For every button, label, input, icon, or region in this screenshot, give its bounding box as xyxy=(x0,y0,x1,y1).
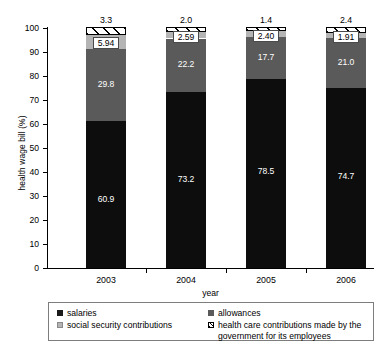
y-tick-label: 40 xyxy=(13,168,39,177)
y-tick-label: 0 xyxy=(13,264,39,273)
x-tick-label-2003: 2003 xyxy=(76,275,136,285)
legend: salaries social security contributions a… xyxy=(48,302,374,341)
y-tick-label: 60 xyxy=(13,120,39,129)
legend-label-salaries: salaries xyxy=(67,308,97,319)
segment-label-salaries-2003: 60.9 xyxy=(86,195,126,204)
x-tick xyxy=(146,269,147,273)
y-tick-label: 80 xyxy=(13,72,39,81)
y-tick xyxy=(43,220,48,221)
y-tick-label: 70 xyxy=(13,96,39,105)
segment-label-social-security-2005: 2.40 xyxy=(253,30,279,42)
legend-item-allowances: allowances xyxy=(208,308,368,319)
legend-item-social-security: social security contributions xyxy=(57,320,207,331)
y-tick-label: 90 xyxy=(13,48,39,57)
social-security-swatch-icon xyxy=(57,322,63,328)
segment-label-social-security-2003: 5.94 xyxy=(93,37,119,49)
bar-2006: 2.4 1.91 21.0 74.7 xyxy=(326,27,366,268)
segment-health-care-2003 xyxy=(86,27,126,35)
bar-top-label-2006: 2.4 xyxy=(326,15,366,25)
bar-2003: 3.3 5.94 29.8 60.9 xyxy=(86,27,126,268)
y-tick xyxy=(43,196,48,197)
bar-top-label-2005: 1.4 xyxy=(246,15,286,25)
bar-top-label-2003: 3.3 xyxy=(86,15,126,25)
x-tick-label-2004: 2004 xyxy=(156,275,216,285)
x-tick xyxy=(226,269,227,273)
x-axis-title: year xyxy=(47,288,374,298)
x-tick-label-2005: 2005 xyxy=(236,275,296,285)
health-care-swatch-icon xyxy=(208,322,214,328)
bar-2004: 2.0 2.59 22.2 73.2 xyxy=(166,27,206,268)
legend-label-social-security: social security contributions xyxy=(67,320,172,331)
y-tick xyxy=(43,28,48,29)
segment-label-allowances-2005: 17.7 xyxy=(246,53,286,62)
y-tick xyxy=(43,76,48,77)
y-tick xyxy=(43,172,48,173)
y-tick-label: 30 xyxy=(13,192,39,201)
y-tick xyxy=(43,52,48,53)
segment-label-allowances-2003: 29.8 xyxy=(86,80,126,89)
legend-label-allowances: allowances xyxy=(218,308,261,319)
segment-label-salaries-2006: 74.7 xyxy=(326,172,366,181)
segment-label-salaries-2005: 78.5 xyxy=(246,167,286,176)
y-tick-label: 10 xyxy=(13,240,39,249)
segment-label-social-security-2004: 2.59 xyxy=(173,31,199,43)
y-tick-label: 100 xyxy=(13,24,39,33)
legend-item-salaries: salaries xyxy=(57,308,207,319)
bar-2005: 1.4 2.40 17.7 78.5 xyxy=(246,27,286,268)
segment-label-social-security-2006: 1.91 xyxy=(333,31,359,43)
y-tick-label: 50 xyxy=(13,144,39,153)
segment-label-allowances-2006: 21.0 xyxy=(326,58,366,67)
salaries-swatch-icon xyxy=(57,310,63,316)
legend-item-health-care: health care contributions made by the go… xyxy=(208,320,370,341)
legend-label-health-care: health care contributions made by the go… xyxy=(218,320,370,341)
segment-label-allowances-2004: 22.2 xyxy=(166,60,206,69)
x-axis-line xyxy=(47,268,374,269)
y-tick xyxy=(43,124,48,125)
bar-top-label-2004: 2.0 xyxy=(166,15,206,25)
allowances-swatch-icon xyxy=(208,310,214,316)
x-tick xyxy=(306,269,307,273)
y-tick xyxy=(43,244,48,245)
y-tick xyxy=(43,100,48,101)
y-tick xyxy=(43,148,48,149)
y-tick-label: 20 xyxy=(13,216,39,225)
stacked-bar-chart: health wage bill (%) 100 90 80 70 60 50 … xyxy=(0,0,382,346)
segment-label-salaries-2004: 73.2 xyxy=(166,175,206,184)
x-tick-label-2006: 2006 xyxy=(316,275,376,285)
